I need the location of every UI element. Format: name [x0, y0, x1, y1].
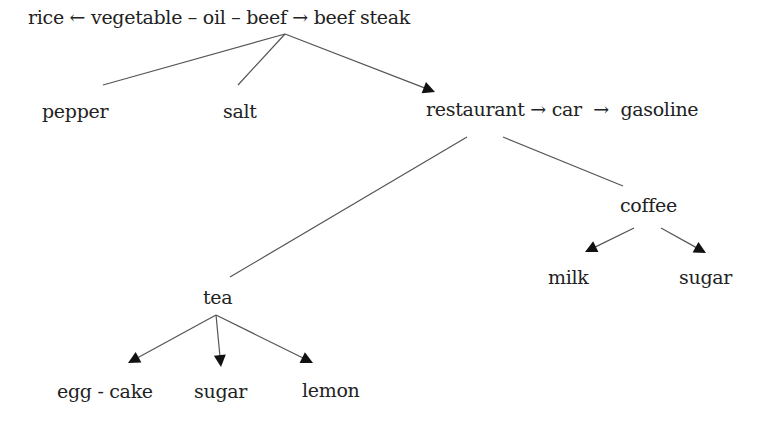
edge-line [230, 137, 467, 277]
arrowhead-icon [214, 354, 226, 367]
edge-line [137, 315, 216, 358]
diagram-canvas: rice ← vegetable – oil – beef → beef ste… [0, 0, 769, 429]
edge-tea-to-egg_cake [128, 315, 216, 363]
edge-tea-to-tea_sugar [214, 315, 226, 367]
node-coffee-sugar: sugar [679, 268, 732, 287]
edge-line [661, 228, 697, 248]
arrowhead-icon [693, 242, 706, 253]
node-top-chain: rice ← vegetable – oil – beef → beef ste… [28, 8, 410, 27]
edge-line [216, 315, 220, 357]
edge-line [594, 228, 634, 248]
edge-beef-to-pepper [103, 34, 285, 85]
edge-line [285, 34, 426, 88]
node-milk: milk [548, 268, 588, 287]
edge-beef-to-salt [238, 34, 285, 85]
node-pepper: pepper [42, 102, 108, 121]
arrowhead-icon [128, 352, 141, 363]
edge-line [503, 137, 623, 186]
node-tea-sugar: sugar [194, 382, 247, 401]
edge-coffee-to-coffee_sugar [661, 228, 706, 253]
edge-restaurant-to-tea [230, 137, 467, 277]
edge-beef-to-restaurant [285, 34, 435, 93]
node-coffee: coffee [620, 196, 677, 215]
edge-line [103, 34, 285, 85]
node-egg-cake: egg - cake [57, 382, 153, 401]
node-tea: tea [203, 288, 232, 307]
edge-restaurant-to-coffee [503, 137, 623, 186]
node-lemon: lemon [302, 381, 360, 400]
edge-tea-to-lemon [216, 315, 313, 363]
node-salt: salt [223, 102, 257, 121]
edge-line [238, 34, 285, 85]
edge-coffee-to-milk [585, 228, 634, 252]
node-restaurant-chain: restaurant → car → gasoline [426, 100, 698, 119]
edge-line [216, 315, 304, 359]
